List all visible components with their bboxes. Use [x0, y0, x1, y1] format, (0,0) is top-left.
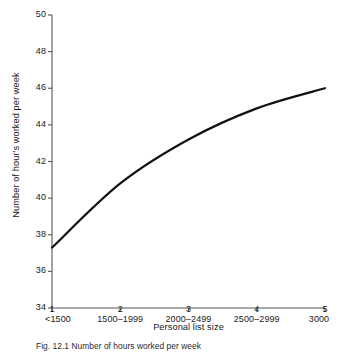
y-tick-label: 38 — [20, 229, 46, 239]
y-tick-label: 40 — [20, 192, 46, 202]
y-tick-label: 48 — [20, 46, 46, 56]
x-tick-number: 2 — [100, 304, 140, 314]
y-axis-label: Number of hour's worked per week — [11, 45, 21, 245]
x-tick-number: 3 — [169, 304, 209, 314]
x-tick-number: 5 — [305, 304, 345, 314]
tick-marks — [48, 15, 325, 312]
x-tick-category: 2500–2999 — [221, 314, 293, 324]
chart-plot-area — [0, 0, 348, 352]
x-tick-category: <1500 — [22, 314, 94, 324]
y-tick-label: 36 — [20, 265, 46, 275]
data-series-line — [52, 88, 325, 247]
axes — [52, 15, 325, 308]
y-tick-label: 46 — [20, 82, 46, 92]
figure-container: Number of hour's worked per week Persona… — [0, 0, 348, 352]
x-tick-category: 2000–2499 — [153, 314, 225, 324]
x-tick-number: 4 — [237, 304, 277, 314]
y-tick-label: 42 — [20, 156, 46, 166]
x-tick-category: 1500–1999 — [84, 314, 156, 324]
figure-caption: Fig. 12.1 Number of hours worked per wee… — [36, 341, 201, 352]
x-tick-number: 1 — [32, 304, 72, 314]
y-tick-label: 44 — [20, 119, 46, 129]
x-tick-category: 3000 — [283, 314, 348, 324]
y-tick-label: 50 — [20, 9, 46, 19]
